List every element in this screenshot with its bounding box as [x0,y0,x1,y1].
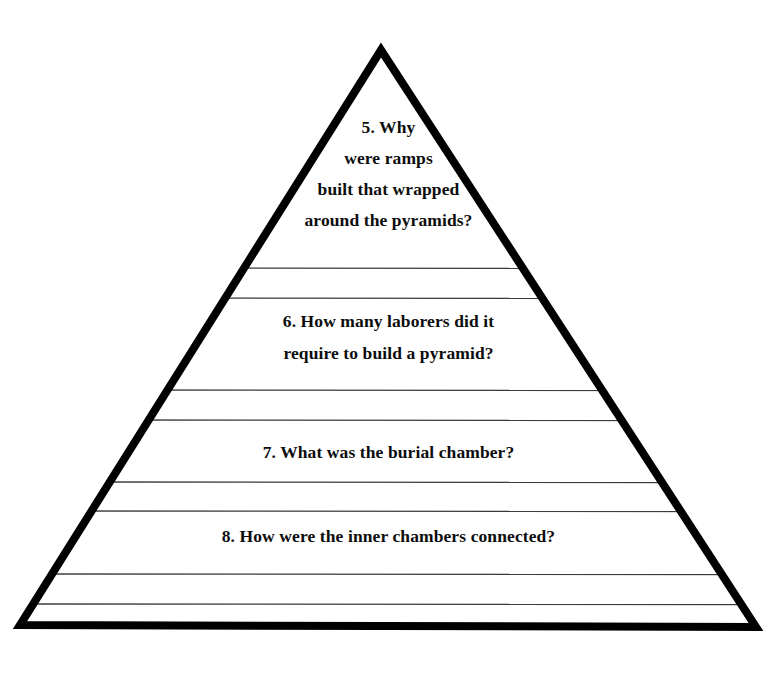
pyramid-rule [0,390,777,391]
question-5-line-4: around the pyramids? [0,205,777,236]
pyramid-rule [0,511,777,512]
question-5-line-2: were ramps [0,143,777,174]
pyramid-rule [0,268,777,269]
question-6-line-1: 6. How many laborers did it [0,305,777,337]
question-5-line-3: built that wrapped [0,174,777,205]
pyramid-rule [0,298,777,299]
question-5-line-1: 5. Why [0,112,777,143]
pyramid-rule [0,604,777,605]
question-8: 8. How were the inner chambers connected… [0,522,777,550]
pyramid-rule [0,574,777,575]
question-6: 6. How many laborers did it require to b… [0,305,777,369]
question-7: 7. What was the burial chamber? [0,438,777,466]
worksheet-page: 5. Why were ramps built that wrapped aro… [0,0,777,678]
question-6-line-2: require to build a pyramid? [0,337,777,369]
question-8-line-1: 8. How were the inner chambers connected… [0,522,777,550]
question-7-line-1: 7. What was the burial chamber? [0,438,777,466]
question-5: 5. Why were ramps built that wrapped aro… [0,112,777,236]
pyramid-rule [0,420,777,421]
